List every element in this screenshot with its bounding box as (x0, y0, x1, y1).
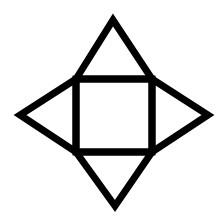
top-triangle (76, 20, 152, 79)
pyramid-net-diagram (0, 0, 224, 223)
right-triangle (152, 79, 208, 152)
pyramid-net-svg (0, 0, 224, 223)
left-triangle (20, 79, 76, 152)
bottom-triangle (76, 152, 152, 206)
base-square (76, 79, 152, 152)
